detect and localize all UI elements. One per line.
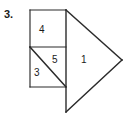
piece-label-3: 3 [34, 68, 40, 78]
figure-container: 3. 4 5 3 1 [0, 0, 126, 121]
piece-label-5: 5 [52, 55, 58, 65]
piece-4-shape [30, 10, 66, 47]
piece-1-shape [66, 10, 122, 112]
piece-label-4: 4 [39, 25, 45, 35]
piece-label-1: 1 [81, 55, 87, 65]
geometry-diagram [0, 0, 126, 121]
